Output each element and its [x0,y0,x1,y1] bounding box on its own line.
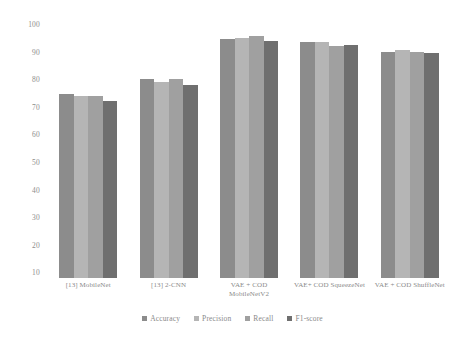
bar-precision[interactable] [235,38,250,278]
bar-accuracy[interactable] [140,79,155,278]
bar-f1-score[interactable] [344,45,359,278]
bar-precision[interactable] [315,42,330,278]
y-axis-tick-label: 10 [32,268,40,277]
y-axis-tick-label: 30 [32,213,40,222]
bar-precision[interactable] [74,96,89,278]
y-axis-tick-label: 60 [32,130,40,139]
legend-item-precision[interactable]: Precision [194,314,231,323]
y-axis-tick-label: 100 [28,20,40,29]
category-label: [13] MobileNet [48,281,128,298]
bar-cluster [220,24,278,278]
category-axis-labels: [13] MobileNet[13] 2-CNNVAE + COD Mobile… [48,281,450,298]
bar-chart: 100908070605040302010 [13] MobileNet[13]… [0,0,465,341]
bar-cluster [140,24,198,278]
bar-accuracy[interactable] [381,52,396,278]
bar-recall[interactable] [410,52,425,278]
bar-recall[interactable] [88,96,103,278]
bar-group [48,24,128,278]
legend-swatch-icon [142,316,147,321]
bar-group [209,24,289,278]
bar-f1-score[interactable] [103,101,118,278]
bar-accuracy[interactable] [59,94,74,278]
bar-cluster [300,24,358,278]
bar-accuracy[interactable] [300,42,315,278]
bar-groups [48,24,450,278]
y-axis-tick-label: 70 [32,102,40,111]
bar-group [289,24,369,278]
legend-swatch-icon [245,316,250,321]
legend-item-f1-score[interactable]: F1-score [287,314,322,323]
bar-recall[interactable] [249,36,264,278]
legend-label: Recall [253,314,273,323]
bar-group [370,24,450,278]
y-axis-tick-label: 40 [32,185,40,194]
bar-group [128,24,208,278]
category-label: VAE + COD ShuffleNet [370,281,450,298]
bar-precision[interactable] [154,82,169,278]
bar-f1-score[interactable] [424,53,439,278]
y-axis-tick-label: 80 [32,75,40,84]
plot-area [48,24,450,278]
legend-label: Precision [202,314,231,323]
category-label: [13] 2-CNN [128,281,208,298]
bar-precision[interactable] [395,50,410,278]
bar-cluster [381,24,439,278]
legend-label: F1-score [295,314,322,323]
legend-item-recall[interactable]: Recall [245,314,273,323]
category-label: VAE + COD MobileNetV2 [209,281,289,298]
legend-item-accuracy[interactable]: Accuracy [142,314,180,323]
bar-recall[interactable] [329,46,344,278]
bar-recall[interactable] [169,79,184,278]
y-axis-tick-label: 20 [32,240,40,249]
y-axis-tick-label: 90 [32,47,40,56]
bar-cluster [59,24,117,278]
legend-swatch-icon [287,316,292,321]
bar-f1-score[interactable] [183,85,198,278]
legend-swatch-icon [194,316,199,321]
chart-legend: AccuracyPrecisionRecallF1-score [0,314,465,323]
y-axis: 100908070605040302010 [0,24,46,278]
bar-f1-score[interactable] [264,41,279,278]
legend-label: Accuracy [150,314,180,323]
category-label: VAE+ COD SqueezeNet [289,281,369,298]
bar-accuracy[interactable] [220,39,235,278]
y-axis-tick-label: 50 [32,158,40,167]
